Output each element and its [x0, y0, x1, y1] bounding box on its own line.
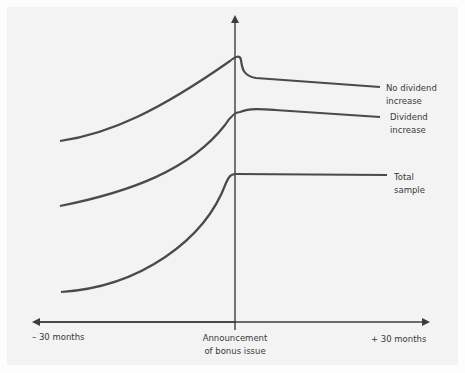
- x-tick-left: – 30 months: [32, 331, 85, 344]
- legend-label-no-dividend-increase: No dividend increase: [386, 82, 437, 107]
- legend-label-total-sample: Total sample: [394, 171, 425, 196]
- legend-label-dividend-increase: Dividend increase: [390, 111, 428, 136]
- series-no-dividend-increase: [60, 57, 380, 141]
- x-tick-center: Announcement of bonus issue: [194, 332, 276, 357]
- x-tick-right: + 30 months: [371, 333, 426, 346]
- series-total-sample: [61, 174, 387, 292]
- series-dividend-increase: [60, 109, 380, 206]
